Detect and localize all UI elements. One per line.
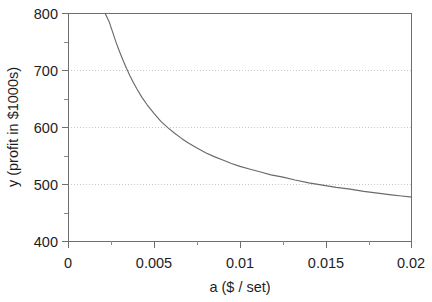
- gridlines-group: [68, 71, 412, 185]
- y-tick-label-700: 700: [34, 63, 58, 79]
- y-tick-label-600: 600: [34, 120, 58, 136]
- profit-curve: [105, 13, 412, 197]
- y-tick-label-500: 500: [34, 177, 58, 193]
- x-tick-label-0.005: 0.005: [136, 255, 172, 271]
- y-axis-title: y (profit in $1000s): [5, 67, 21, 187]
- x-tick-labels: 0 0.005 0.01 0.015 0.02: [64, 255, 425, 271]
- x-axis-ticks: [69, 241, 412, 248]
- y-tick-labels: 800 700 600 500 400: [34, 6, 58, 250]
- x-tick-label-0.015: 0.015: [308, 255, 344, 271]
- data-layer: [105, 13, 412, 197]
- x-tick-label-0.01: 0.01: [226, 255, 254, 271]
- y-tick-label-800: 800: [34, 6, 58, 22]
- x-tick-label-0: 0: [64, 255, 72, 271]
- y-axis-ticks: [62, 14, 68, 242]
- y-tick-label-400: 400: [34, 234, 58, 250]
- chart-svg: 800 700 600 500 400 0 0.005 0.01 0.015 0…: [0, 0, 432, 302]
- chart-figure: 800 700 600 500 400 0 0.005 0.01 0.015 0…: [0, 0, 432, 302]
- x-tick-label-0.02: 0.02: [397, 255, 425, 271]
- x-axis-title: a ($ / set): [209, 279, 270, 295]
